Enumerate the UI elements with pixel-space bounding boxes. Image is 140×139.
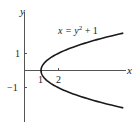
x-axis-label: x [126, 64, 132, 76]
y-axis-label: y [19, 5, 25, 17]
parabola-chart: y x 1 2 1 −1 x = y2 + 1 [0, 0, 140, 139]
x-tick-label-1: 1 [38, 74, 43, 85]
y-tick-label-neg1: −1 [7, 82, 18, 93]
y-tick-label-1: 1 [15, 48, 20, 59]
equation-annotation: x = y2 + 1 [57, 24, 98, 36]
x-tick-label-2: 2 [56, 74, 61, 85]
